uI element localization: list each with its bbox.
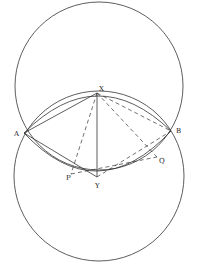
- segment-PQ: [71, 157, 157, 174]
- label-P: P: [66, 174, 71, 182]
- arc-AXB: [24, 96, 171, 133]
- segment-AY: [24, 133, 97, 177]
- label-A: A: [13, 130, 20, 138]
- geometry-diagram: A B X Y P Q: [0, 0, 197, 268]
- label-X: X: [99, 85, 104, 93]
- label-Y: Y: [94, 182, 100, 190]
- label-Q: Q: [159, 157, 165, 165]
- segment-XQ: [97, 93, 157, 157]
- label-B: B: [176, 127, 181, 135]
